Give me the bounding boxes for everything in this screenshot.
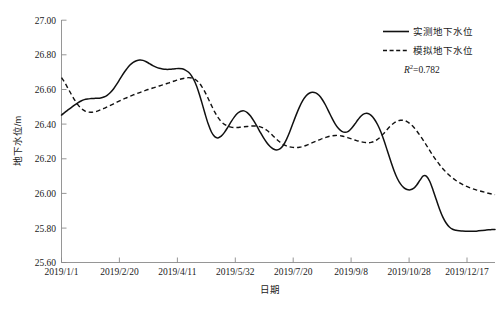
x-axis-title: 日期 (260, 284, 280, 295)
y-tick-label: 26.40 (35, 120, 57, 130)
legend: 实测地下水位 模拟地下水位 R2=0.782 (383, 26, 473, 75)
series-line-simulated (62, 78, 496, 195)
legend-label-simulated: 模拟地下水位 (413, 45, 473, 56)
y-tick-label: 27.00 (35, 16, 57, 26)
x-tick-label: 2019/10/28 (387, 267, 431, 277)
x-tick-label: 2019/12/17 (445, 267, 489, 277)
series-line-observed (62, 60, 496, 231)
y-axis-tick-labels: 27.00 26.80 26.60 26.40 26.20 26.00 25.8… (35, 16, 57, 268)
r-squared-value: =0.782 (413, 65, 440, 75)
x-tick-label: 2019/5/32 (216, 267, 255, 277)
r-squared-annotation: R2=0.782 (403, 63, 440, 75)
y-tick-label: 26.60 (35, 85, 57, 95)
y-axis-title: 地下水位/m (12, 116, 23, 167)
y-tick-label: 25.80 (35, 224, 57, 234)
y-axis-ticks (62, 20, 67, 262)
x-tick-label: 2019/4/11 (158, 267, 196, 277)
y-tick-label: 26.00 (35, 189, 57, 199)
y-tick-label: 26.80 (35, 50, 57, 60)
x-axis-tick-labels: 2019/1/1 2019/2/20 2019/4/11 2019/5/32 2… (45, 267, 489, 277)
groundwater-level-chart: 27.00 26.80 26.60 26.40 26.20 26.00 25.8… (0, 0, 503, 312)
x-tick-label: 2019/2/20 (100, 267, 139, 277)
x-tick-label: 2019/9/8 (334, 267, 368, 277)
x-tick-label: 2019/7/20 (274, 267, 313, 277)
figure-container: 27.00 26.80 26.60 26.40 26.20 26.00 25.8… (0, 0, 503, 312)
x-axis-ticks (62, 258, 468, 263)
x-tick-label: 2019/1/1 (45, 267, 79, 277)
legend-label-observed: 实测地下水位 (413, 26, 473, 37)
y-tick-label: 26.20 (35, 154, 57, 164)
